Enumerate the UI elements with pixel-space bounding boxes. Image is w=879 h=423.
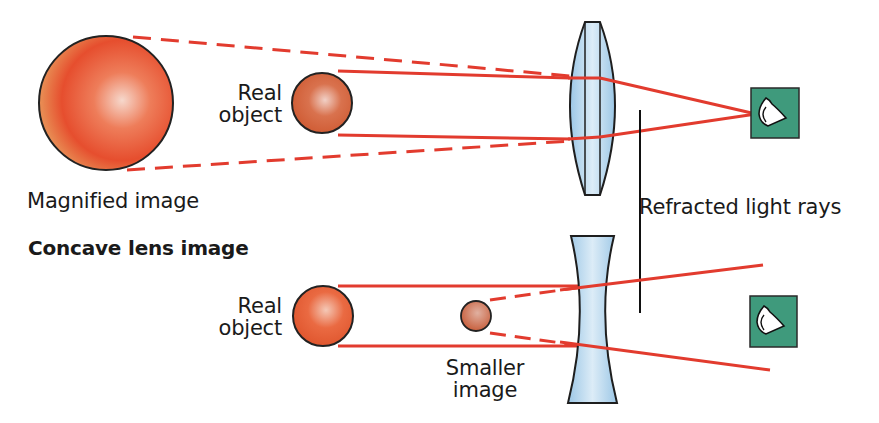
- real-object-label-bottom-line1: Real: [212, 295, 282, 317]
- smaller-image-label-line1: Smaller: [440, 357, 530, 379]
- magnified-image-label: Magnified image: [27, 190, 199, 212]
- concave-lens: [568, 236, 617, 403]
- eye-icon-top: [751, 88, 799, 138]
- real-object-label-bottom-line2: object: [212, 317, 282, 339]
- real-object-label-bottom: Real object: [212, 295, 282, 339]
- real-object-sphere-top: [292, 73, 352, 133]
- virtual-ray-bottom: [127, 141, 570, 170]
- real-object-label-top: Real object: [212, 82, 282, 126]
- refracted-light-rays-label: Refracted light rays: [639, 196, 841, 218]
- ray-bottom-incoming: [338, 135, 570, 139]
- refracted-ray-top: [600, 78, 756, 114]
- concave-section-title: Concave lens image: [28, 237, 249, 259]
- smaller-image-label-line2: image: [440, 379, 530, 401]
- smaller-image-sphere: [461, 301, 491, 331]
- refracted-ray-bottom: [600, 114, 756, 137]
- magnified-image-sphere: [39, 36, 173, 170]
- real-object-sphere-bottom: [293, 286, 353, 346]
- convex-lens: [570, 22, 615, 195]
- smaller-image-label: Smaller image: [440, 357, 530, 401]
- real-object-label-top-line2: object: [212, 104, 282, 126]
- real-object-label-top-line1: Real: [212, 82, 282, 104]
- eye-icon-bottom: [750, 296, 797, 347]
